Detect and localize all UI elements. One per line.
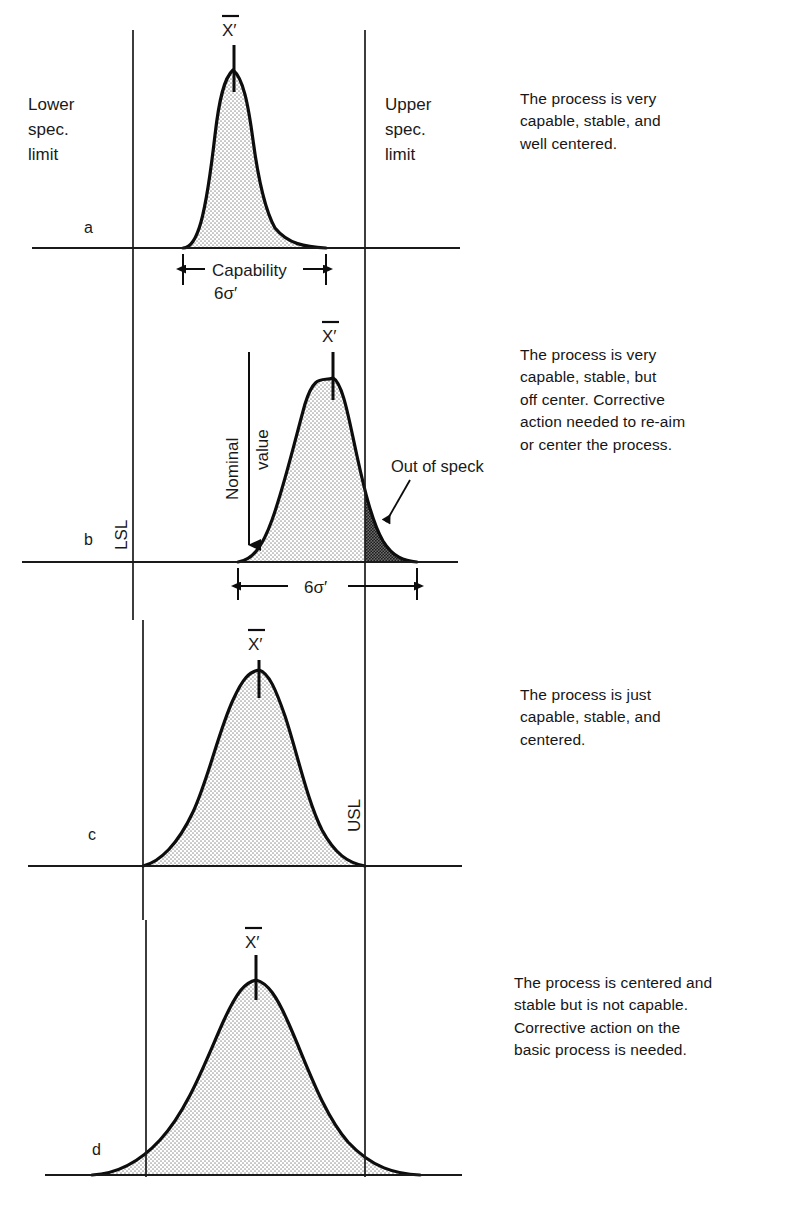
panel-b-six-sigma-label: 6σ′ [304, 578, 327, 597]
panel-a-mean-label-group: X′ [222, 16, 239, 40]
panel-a [32, 30, 460, 300]
panel-b-letter: b [84, 531, 93, 548]
panel-d-distribution-area [92, 980, 420, 1175]
panel-a-capability-label: Capability [212, 261, 287, 280]
panel-c-mean-label-group: X′ [248, 630, 265, 654]
process-capability-figure: X′ Lower spec. limit Upper spec. limit a… [0, 0, 788, 1213]
panel-c-xbar-label: X′ [248, 635, 263, 654]
panel-a-xbar-label: X′ [222, 21, 237, 40]
panel-c-usl-label: USL [345, 799, 364, 832]
panel-a-upper-spec-limit-label-line1: Upper [385, 95, 432, 114]
panel-b-out-of-spec-label: Out of speck [391, 457, 484, 475]
panel-a-lower-spec-limit-label-line1: Lower [28, 95, 75, 114]
panel-b-description: The process is very capable, stable, but… [520, 344, 775, 456]
panel-a-letter: a [84, 219, 93, 236]
panel-b-value-label: value [253, 429, 272, 470]
panel-a-lower-spec-limit-label-line3: limit [28, 145, 58, 164]
panel-c-distribution-area [143, 670, 365, 866]
panel-d-letter: d [92, 1141, 101, 1158]
panel-a-upper-spec-limit-label-line2: spec. [385, 120, 426, 139]
panel-b-mean-label-group: X′ [322, 322, 339, 346]
panel-d-description: The process is centered and stable but i… [514, 972, 784, 1062]
panel-a-description: The process is very capable, stable, and… [520, 88, 770, 155]
panel-a-lower-spec-limit-label-line2: spec. [28, 120, 69, 139]
panel-d-mean-label-group: X′ [245, 928, 262, 952]
panel-c-letter: c [88, 826, 96, 843]
panel-b-out-of-spec-leader [386, 480, 410, 522]
panel-c [28, 620, 462, 920]
panel-d-xbar-label: X′ [245, 933, 260, 952]
panel-a-upper-spec-limit-label-line3: limit [385, 145, 415, 164]
panel-c-description: The process is just capable, stable, and… [520, 684, 770, 751]
panel-a-six-sigma-label: 6σ′ [214, 284, 237, 303]
panel-b-xbar-label: X′ [322, 327, 337, 346]
panel-b-nominal-label: Nominal [223, 438, 242, 500]
panel-b-lsl-label: LSL [112, 520, 131, 550]
panel-d [45, 920, 462, 1177]
